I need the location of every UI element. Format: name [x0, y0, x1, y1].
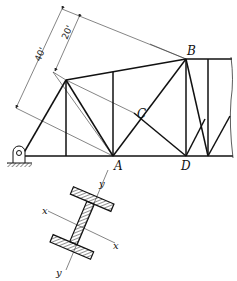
- axis-label-x-right: x: [113, 240, 119, 251]
- axis-label-y-bottom: y: [55, 267, 62, 278]
- node-label-c: C: [137, 107, 146, 121]
- i-beam-section: [48, 170, 115, 270]
- node-label-b: B: [186, 44, 196, 58]
- truss-figure: 40' 20' B C A D: [0, 0, 237, 281]
- dimension-20-label: 20': [60, 24, 75, 41]
- break-line: [230, 57, 233, 158]
- axis-label-y-top: y: [98, 178, 105, 189]
- axis-label-x-left: x: [42, 205, 48, 216]
- dimension-40-label: 40': [33, 46, 48, 63]
- truss-members: [22, 59, 233, 156]
- node-label-d: D: [180, 159, 191, 173]
- node-label-a: A: [113, 159, 123, 173]
